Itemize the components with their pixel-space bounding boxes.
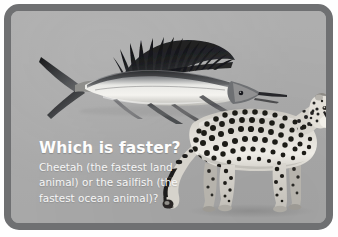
cheetah-tear-stripe <box>323 111 331 123</box>
flashcard: Which is faster? Cheetah (the fastest la… <box>0 0 338 237</box>
sailfish-sail-membrane <box>120 40 235 82</box>
sailfish-bill <box>258 92 287 97</box>
cheetah-hind-leg-near <box>219 165 235 207</box>
cheetah-head <box>309 96 333 129</box>
card-frame: Which is faster? Cheetah (the fastest la… <box>4 4 333 230</box>
cheetah-body <box>189 109 317 171</box>
cheetah-front-leg-near <box>273 163 287 209</box>
sailfish-body <box>85 70 251 106</box>
sailfish-dorsal-fin <box>113 37 234 81</box>
cheetah-ear <box>315 93 327 98</box>
sailfish-photo <box>25 19 291 124</box>
question-line-2: animal) or the sailfish (the <box>39 175 185 190</box>
sailfish-tail <box>39 57 97 119</box>
page-title: Which is faster? <box>39 140 185 156</box>
sailfish-eye <box>239 91 244 96</box>
question-line-3: fastest ocean animal)? <box>39 191 185 206</box>
question-line-1: Cheetah (the fastest land <box>39 160 185 175</box>
cheetah-hind-leg-far <box>203 163 217 209</box>
question-text: Cheetah (the fastest land animal) or the… <box>39 160 185 206</box>
cheetah-nose <box>331 119 333 123</box>
sailfish-pelvic-fin <box>147 103 195 124</box>
cheetah-spots <box>192 109 312 168</box>
sailfish-head <box>227 81 261 104</box>
cheetah-neck <box>293 100 328 134</box>
text-block: Which is faster? Cheetah (the fastest la… <box>35 140 185 206</box>
cheetah-front-leg-far <box>289 161 301 207</box>
card-background: Which is faster? Cheetah (the fastest la… <box>11 11 326 223</box>
cheetah-photo <box>159 83 333 228</box>
cheetah-eye <box>322 106 327 110</box>
